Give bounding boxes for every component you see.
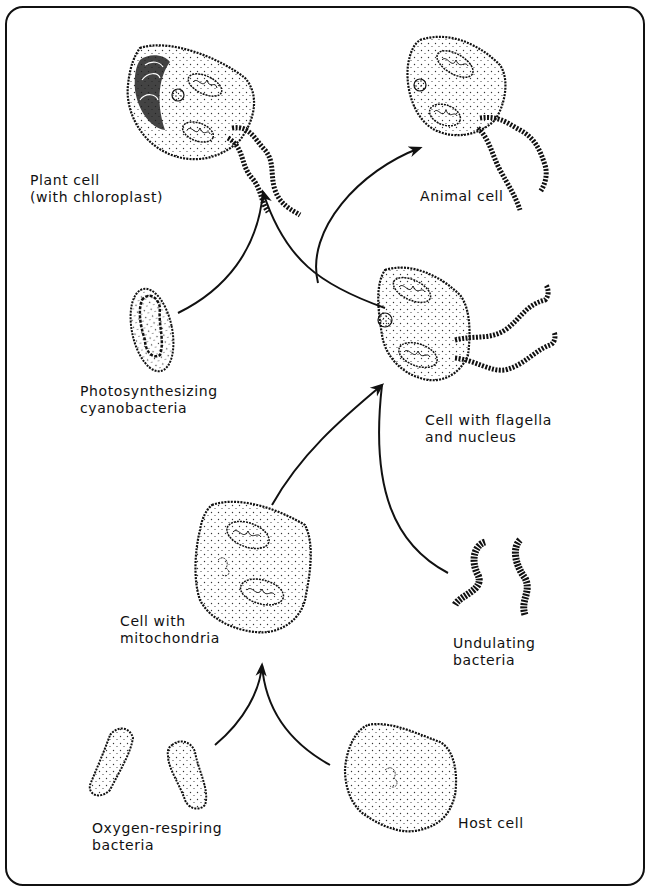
label-oxygen-bacteria: Oxygen-respiringbacteria xyxy=(92,820,222,854)
label-mito-cell: Cell withmitochondria xyxy=(120,613,220,647)
label-animal-cell: Animal cell xyxy=(420,188,504,205)
label-line: Plant cell xyxy=(30,172,100,188)
arrow-mito-to-flagella xyxy=(272,385,382,505)
label-line: Cell with xyxy=(120,613,186,629)
label-line: Photosynthesizing xyxy=(80,383,218,399)
cyanobacteria-illustration xyxy=(124,285,181,375)
oxygen-bacteria-illustration xyxy=(90,729,206,809)
arrows xyxy=(178,148,448,765)
label-flagella-cell: Cell with flagellaand nucleus xyxy=(425,412,552,446)
label-line: (with chloroplast) xyxy=(30,189,163,205)
label-host-cell: Host cell xyxy=(458,815,524,832)
arrow-flagella-to-plant xyxy=(263,192,385,308)
arrow-oxygen-to-mito xyxy=(215,665,262,745)
label-line: bacteria xyxy=(92,837,154,853)
label-line: Oxygen-respiring xyxy=(92,820,222,836)
label-line: and nucleus xyxy=(425,429,517,445)
label-line: Cell with flagella xyxy=(425,412,552,428)
label-line: mitochondria xyxy=(120,630,220,646)
animal-cell-illustration xyxy=(407,37,546,210)
label-undulating-bacteria: Undulatingbacteria xyxy=(453,635,536,669)
label-line: Animal cell xyxy=(420,188,504,204)
arrow-host-to-mito xyxy=(262,665,330,765)
host-cell-illustration xyxy=(345,724,456,831)
label-cyanobacteria: Photosynthesizingcyanobacteria xyxy=(80,383,218,417)
flagella-nucleus-cell-illustration xyxy=(378,268,555,381)
undulating-bacteria-illustration xyxy=(455,540,527,615)
label-line: bacteria xyxy=(453,652,515,668)
label-line: Undulating xyxy=(453,635,536,651)
arrow-cyano-to-plant xyxy=(178,192,263,313)
label-line: Host cell xyxy=(458,815,524,831)
arrow-flagella-to-animal xyxy=(316,148,420,283)
diagram-artwork xyxy=(0,0,654,894)
label-plant-cell: Plant cell(with chloroplast) xyxy=(30,172,163,206)
label-line: cyanobacteria xyxy=(80,400,187,416)
